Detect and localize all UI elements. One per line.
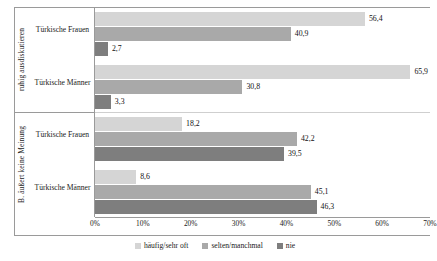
bar-value-0-1-2: 3,3 — [115, 98, 125, 106]
bar-1-1-1 — [95, 185, 311, 199]
bar-1-1-0 — [95, 170, 136, 184]
legend-label-0: häufig/sehr oft — [144, 242, 189, 250]
legend-item-0: häufig/sehr oft — [135, 242, 189, 250]
x-tick-label-7: 70% — [423, 220, 437, 227]
group-axis-title-text-0: ruhig ausdiskutieren — [18, 28, 25, 91]
bar-0-0-1 — [95, 27, 291, 41]
group-axis-title-text-1: B. äußert keine Meinung — [18, 126, 25, 203]
bar-1-0-0 — [95, 117, 182, 131]
bar-0-1-2 — [95, 95, 111, 109]
x-tick-label-0: 0% — [90, 220, 100, 227]
group-label-block-0: ruhig ausdiskutieren Türkische Frauen Tü… — [14, 7, 95, 112]
x-axis-line — [95, 217, 430, 218]
bar-0-0-0 — [95, 12, 365, 26]
bar-group-1: 18,2 42,2 39,5 8,6 45,1 46,3 — [95, 112, 430, 217]
legend-item-1: selten/manchmal — [202, 242, 262, 250]
bar-row-0-1-2: 3,3 — [95, 95, 125, 109]
bar-value-0-0-2: 2,7 — [112, 45, 122, 53]
bar-value-0-1-0: 65,9 — [414, 68, 428, 76]
group-axis-title-1: B. äußert keine Meinung — [14, 112, 30, 217]
bar-row-1-1-0: 8,6 — [95, 170, 150, 184]
bar-row-1-1-1: 45,1 — [95, 185, 328, 199]
chart-legend: häufig/sehr oft selten/manchmal nie — [0, 242, 430, 250]
bar-row-0-0-0: 56,4 — [95, 12, 383, 26]
bar-row-1-1-2: 46,3 — [95, 200, 334, 214]
x-tick-label-5: 50% — [328, 220, 342, 227]
bar-group-0: 56,4 40,9 2,7 65,9 30,8 3,3 — [95, 7, 430, 112]
bar-value-1-1-1: 45,1 — [315, 188, 329, 196]
category-label-1-1: Türkische Männer — [30, 184, 95, 192]
x-tick-label-2: 20% — [184, 220, 198, 227]
x-tick-label-1: 10% — [136, 220, 150, 227]
bar-row-1-0-2: 39,5 — [95, 147, 302, 161]
bar-value-1-1-0: 8,6 — [140, 173, 150, 181]
bar-row-0-1-0: 65,9 — [95, 65, 428, 79]
group-axis-title-0: ruhig ausdiskutieren — [14, 7, 30, 112]
bar-1-0-1 — [95, 132, 297, 146]
legend-label-2: nie — [286, 242, 295, 250]
bar-row-1-0-0: 18,2 — [95, 117, 200, 131]
bar-row-0-0-2: 2,7 — [95, 42, 122, 56]
chart-frame-bottom — [14, 235, 430, 236]
bar-0-0-2 — [95, 42, 108, 56]
legend-label-1: selten/manchmal — [211, 242, 262, 250]
bar-1-0-2 — [95, 147, 284, 161]
bar-value-1-1-2: 46,3 — [321, 203, 335, 211]
bar-value-1-0-1: 42,2 — [301, 135, 315, 143]
legend-item-2: nie — [277, 242, 295, 250]
x-tick-label-6: 60% — [375, 220, 389, 227]
category-label-0-0: Türkische Frauen — [30, 26, 95, 34]
bar-value-0-0-0: 56,4 — [369, 15, 383, 23]
group-label-block-1: B. äußert keine Meinung Türkische Frauen… — [14, 112, 95, 217]
bar-row-1-0-1: 42,2 — [95, 132, 315, 146]
bar-value-0-1-1: 30,8 — [246, 83, 260, 91]
category-label-1-0: Türkische Frauen — [30, 131, 95, 139]
bar-value-1-0-0: 18,2 — [186, 120, 200, 128]
bar-value-1-0-2: 39,5 — [288, 150, 302, 158]
plot-area: 56,4 40,9 2,7 65,9 30,8 3,3 — [95, 7, 430, 217]
legend-swatch-icon-2 — [277, 243, 283, 249]
bar-row-0-0-1: 40,9 — [95, 27, 308, 41]
category-label-0-1: Türkische Männer — [30, 79, 95, 87]
bar-0-1-0 — [95, 65, 410, 79]
bar-row-0-1-1: 30,8 — [95, 80, 260, 94]
bar-1-1-2 — [95, 200, 317, 214]
legend-swatch-icon-1 — [202, 243, 208, 249]
x-tick-label-3: 30% — [232, 220, 246, 227]
legend-swatch-icon-0 — [135, 243, 141, 249]
bar-0-1-1 — [95, 80, 242, 94]
x-tick-label-4: 40% — [280, 220, 294, 227]
bar-value-0-0-1: 40,9 — [295, 30, 309, 38]
